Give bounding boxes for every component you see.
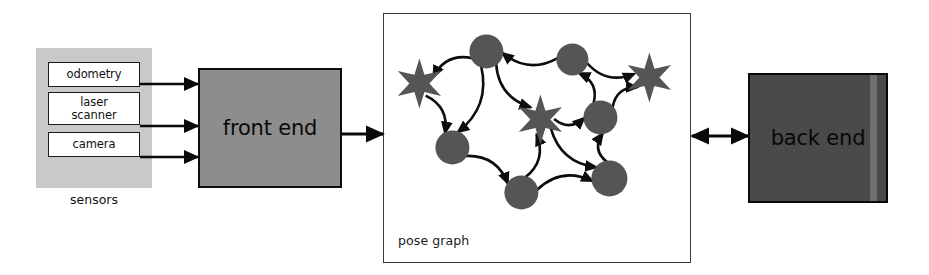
sensor-box-laser-scanner[interactable]: laserscanner — [48, 92, 140, 125]
pose-graph-edge — [554, 118, 584, 125]
pose-graph-node-circle — [591, 160, 627, 196]
pose-graph-edge — [551, 128, 597, 167]
pose-graph-node-circle — [504, 175, 538, 209]
sensor-box-odometry[interactable]: odometry — [48, 62, 140, 87]
sensor-label-camera: camera — [73, 138, 116, 150]
sensor-box-camera[interactable]: camera — [48, 132, 140, 157]
pose-graph-node-circle — [435, 130, 469, 164]
pose-graph-edge — [426, 96, 446, 133]
back-end-label: back end — [771, 126, 866, 150]
pose-graph-node-circle — [469, 34, 503, 68]
pose-graph-edge — [537, 175, 593, 190]
pose-graph-edge — [502, 53, 557, 65]
pose-graph-edge — [496, 64, 531, 108]
pose-graph-nodes — [398, 34, 671, 209]
pose-graph-node-landmark-star — [628, 52, 671, 102]
pose-graph-edge — [466, 156, 508, 184]
slam-architecture-diagram: odometry laserscanner camera sensors fro… — [0, 0, 929, 275]
pose-graph-node-circle — [556, 43, 588, 75]
pose-graph-edge — [525, 134, 540, 177]
pose-graph-caption: pose graph — [398, 233, 469, 248]
sensors-panel: odometry laserscanner camera — [36, 48, 152, 188]
sensors-caption: sensors — [36, 192, 152, 207]
sensor-label-laser-scanner: laserscanner — [71, 96, 116, 121]
front-end-box[interactable]: front end — [198, 68, 342, 188]
pose-graph-edge — [598, 133, 607, 162]
pose-graph-panel: pose graph — [383, 13, 691, 263]
pose-graph-edge — [433, 57, 472, 77]
pose-graph-node-circle — [583, 100, 617, 134]
pose-graph-visualization — [384, 14, 689, 261]
pose-graph-edge — [587, 63, 635, 78]
front-end-label: front end — [223, 116, 317, 140]
sensor-label-odometry: odometry — [67, 68, 122, 80]
pose-graph-edge — [579, 73, 595, 103]
back-end-highlight-stripe — [870, 75, 877, 201]
pose-graph-edge — [613, 87, 638, 107]
back-end-box[interactable]: back end — [748, 73, 888, 203]
pose-graph-edge — [458, 66, 483, 132]
